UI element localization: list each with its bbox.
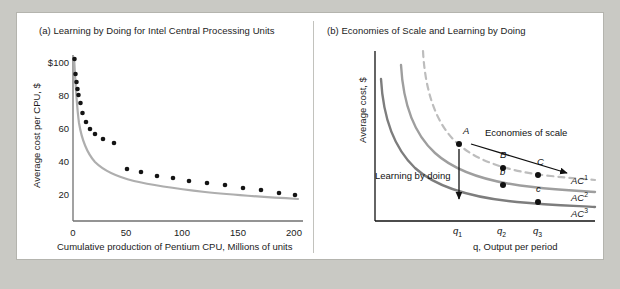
panel-b-point-label-A: A xyxy=(463,125,469,136)
figure-container: (a) Learning by Doing for Intel Central … xyxy=(16,12,604,260)
panel-b-point-label-C: C xyxy=(537,156,544,167)
panel-b-label-ac2-base: AC xyxy=(571,192,584,203)
panel-b: (b) Economies of Scale and Learning by D… xyxy=(313,13,605,261)
economies-of-scale-arrow xyxy=(471,144,567,173)
panel-b-label-ac1-sup: 1 xyxy=(584,174,588,181)
panel-b-xtick-q1-sub: 1 xyxy=(458,231,462,238)
panel-b-xtick-q3: q3 xyxy=(533,225,542,238)
annotation-economies-of-scale: Economies of scale xyxy=(485,127,567,138)
panel-b-point-label-B: B xyxy=(500,149,506,160)
panel-b-xtick-q3-sub: 3 xyxy=(538,231,542,238)
panel-b-xtick-q2: q2 xyxy=(497,225,506,238)
panel-b-label-ac3-base: AC xyxy=(571,208,584,219)
panel-b-point-label-b: b xyxy=(500,166,505,177)
panel-b-label-ac2: AC2 xyxy=(571,191,588,203)
panel-b-label-ac3: AC3 xyxy=(571,207,588,219)
panel-a-data-points xyxy=(72,57,297,198)
panel-b-point-label-c: c xyxy=(536,183,541,194)
panel-b-curve-ac1 xyxy=(423,51,595,180)
panel-b-label-ac2-sup: 2 xyxy=(584,191,588,198)
panel-a-plot xyxy=(17,13,313,261)
panel-b-curve-ac3 xyxy=(381,79,595,207)
panel-b-label-ac3-sup: 3 xyxy=(584,207,588,214)
panel-a: (a) Learning by Doing for Intel Central … xyxy=(17,13,313,261)
annotation-learning-by-doing: Learning by doing xyxy=(375,170,451,181)
panel-b-xtick-q1: q1 xyxy=(453,225,462,238)
panel-b-label-ac1-base: AC xyxy=(571,175,584,186)
panel-b-xtick-q2-sub: 2 xyxy=(502,231,506,238)
panel-b-label-ac1: AC1 xyxy=(571,174,588,186)
panel-a-fitted-curve xyxy=(74,60,298,199)
